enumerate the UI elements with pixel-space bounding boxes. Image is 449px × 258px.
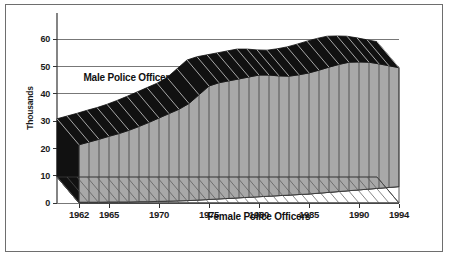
x-tick-label-1965: 1965: [99, 209, 120, 220]
y-tick-labels-group: 0102030405060: [41, 34, 51, 208]
y-tick-label-30: 30: [41, 116, 51, 126]
x-tick-label-1994: 1994: [389, 209, 410, 220]
stacked-area-3d-chart: 0102030405060 Thousands 1962196519701975…: [0, 0, 449, 258]
chart-screenshot: 0102030405060 Thousands 1962196519701975…: [0, 0, 449, 258]
y-tick-label-20: 20: [41, 144, 51, 154]
y-axis-title: Thousands: [25, 86, 35, 130]
chart-canvas: 0102030405060 Thousands 1962196519701975…: [0, 0, 449, 258]
y-tick-label-0: 0: [45, 198, 50, 208]
female-series-label: Female Police Officers: [208, 211, 312, 222]
male-series-label: Male Police Officers: [83, 72, 175, 83]
x-tick-label-1962: 1962: [69, 209, 89, 220]
y-tick-label-60: 60: [41, 34, 51, 44]
y-tick-label-50: 50: [41, 62, 51, 72]
x-tick-marks: [79, 204, 399, 208]
y-tick-label-40: 40: [41, 89, 51, 99]
y-tick-label-10: 10: [41, 171, 51, 181]
x-tick-label-1990: 1990: [349, 209, 369, 220]
x-tick-label-1970: 1970: [149, 209, 169, 220]
